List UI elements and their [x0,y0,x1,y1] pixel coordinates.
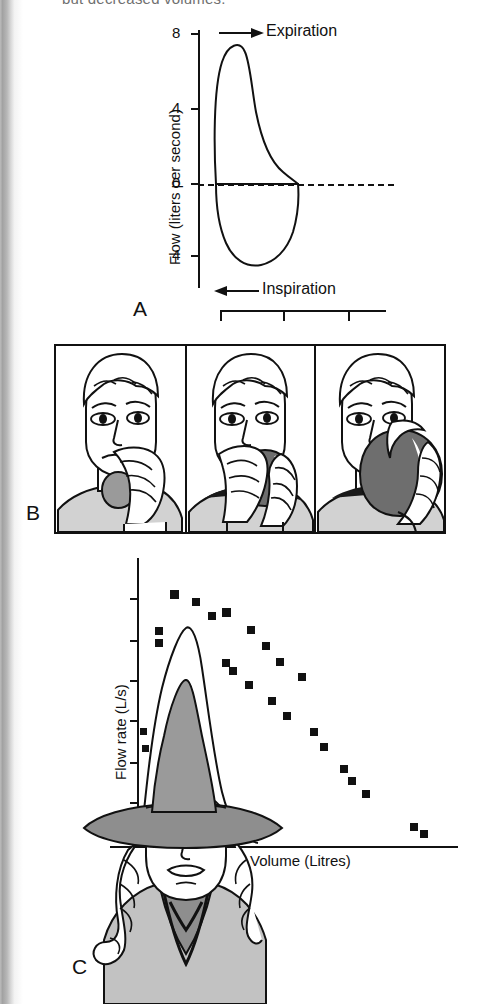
panel-c: Flow rate (L/s) Volume (Litres) [0,540,498,1004]
panel-b-letter: B [26,501,40,525]
figure-page: but decreased volumes. 8 4 0 4 Flow (lit… [0,0,498,1004]
panel-c-letter: C [72,955,87,979]
inspiration-label: Inspiration [262,280,336,298]
panel-a-flow-volume-loop [0,0,498,330]
panel-b-frame-2 [185,346,314,532]
panel-b-frame-1 [56,346,185,532]
expiration-label: Expiration [266,22,337,40]
man-deflated-balloon-illustration [56,346,185,532]
witch-portrait-illustration [0,540,498,1004]
man-full-balloon-illustration [316,346,444,532]
man-inflating-balloon-illustration [187,346,314,532]
panel-b-frames: B [54,344,446,534]
panel-a: 8 4 0 4 Flow (liters per second) Expirat… [0,0,498,330]
inspiration-arrow-icon [214,283,260,299]
expiration-arrow-icon [218,25,264,41]
panel-b-frame-3 [314,346,444,532]
panel-a-letter: A [133,297,147,321]
panel-a-volume-scale-bar [218,305,388,323]
